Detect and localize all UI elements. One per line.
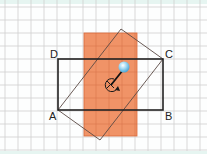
rotation-ball[interactable]	[119, 62, 130, 73]
bottom-band	[0, 151, 207, 154]
label-b: B	[165, 111, 172, 122]
label-a: A	[49, 111, 56, 122]
diagram-canvas: D C A B	[0, 0, 207, 154]
label-d: D	[50, 49, 58, 60]
geometry-figure	[0, 0, 207, 154]
label-c: C	[165, 49, 173, 60]
